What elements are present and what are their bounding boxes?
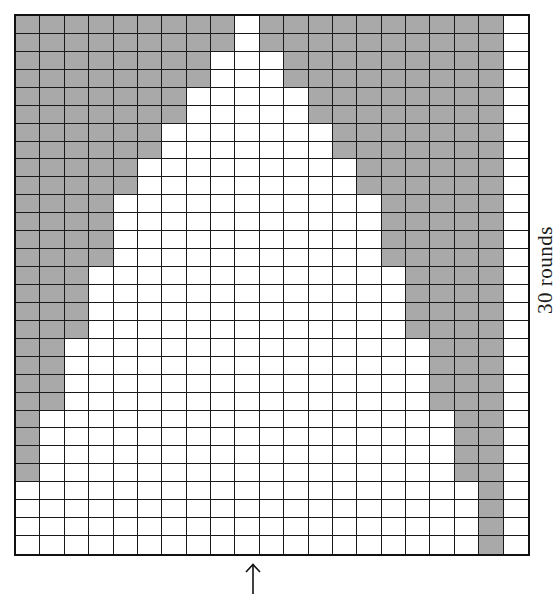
shaded-cell — [187, 34, 211, 52]
shaded-cell — [455, 339, 479, 357]
shaded-cell — [89, 124, 113, 142]
blank-cell — [138, 339, 162, 357]
shaded-cell — [16, 249, 40, 267]
blank-cell — [65, 446, 89, 464]
blank-cell — [309, 357, 333, 375]
shaded-cell — [430, 124, 454, 142]
blank-cell — [162, 142, 186, 160]
blank-cell — [284, 231, 308, 249]
up-arrow-icon — [243, 563, 263, 595]
shaded-cell — [479, 446, 503, 464]
blank-cell — [235, 464, 259, 482]
blank-cell — [114, 303, 138, 321]
shaded-cell — [430, 16, 454, 34]
blank-cell — [162, 482, 186, 500]
shaded-cell — [479, 285, 503, 303]
blank-cell — [187, 249, 211, 267]
blank-cell — [235, 195, 259, 213]
blank-cell — [89, 339, 113, 357]
blank-cell — [309, 393, 333, 411]
blank-cell — [382, 482, 406, 500]
shaded-cell — [455, 70, 479, 88]
blank-cell — [138, 321, 162, 339]
blank-cell — [309, 303, 333, 321]
blank-cell — [357, 428, 381, 446]
shaded-cell — [16, 428, 40, 446]
shaded-cell — [406, 303, 430, 321]
blank-cell — [430, 500, 454, 518]
blank-cell — [504, 393, 528, 411]
blank-cell — [65, 500, 89, 518]
blank-cell — [138, 285, 162, 303]
shaded-cell — [333, 124, 357, 142]
blank-cell — [114, 231, 138, 249]
blank-cell — [260, 446, 284, 464]
shaded-cell — [430, 52, 454, 70]
shaded-cell — [16, 88, 40, 106]
blank-cell — [211, 428, 235, 446]
shaded-cell — [40, 106, 64, 124]
shaded-cell — [16, 16, 40, 34]
blank-cell — [382, 267, 406, 285]
blank-cell — [455, 482, 479, 500]
blank-cell — [260, 375, 284, 393]
shaded-cell — [16, 321, 40, 339]
shaded-cell — [162, 88, 186, 106]
shaded-cell — [430, 303, 454, 321]
blank-cell — [357, 249, 381, 267]
blank-cell — [138, 195, 162, 213]
blank-cell — [260, 357, 284, 375]
blank-cell — [504, 321, 528, 339]
shaded-cell — [138, 52, 162, 70]
shaded-cell — [16, 375, 40, 393]
blank-cell — [430, 446, 454, 464]
shaded-cell — [479, 16, 503, 34]
shaded-cell — [406, 177, 430, 195]
blank-cell — [89, 375, 113, 393]
shaded-cell — [406, 285, 430, 303]
blank-cell — [309, 321, 333, 339]
blank-cell — [333, 518, 357, 536]
shaded-cell — [479, 249, 503, 267]
blank-cell — [260, 70, 284, 88]
blank-cell — [455, 536, 479, 554]
blank-cell — [89, 357, 113, 375]
blank-cell — [162, 500, 186, 518]
blank-cell — [211, 195, 235, 213]
blank-cell — [211, 303, 235, 321]
shaded-cell — [430, 195, 454, 213]
blank-cell — [211, 52, 235, 70]
blank-cell — [504, 518, 528, 536]
blank-cell — [187, 518, 211, 536]
shaded-cell — [284, 52, 308, 70]
blank-cell — [284, 106, 308, 124]
blank-cell — [260, 106, 284, 124]
blank-cell — [235, 159, 259, 177]
blank-cell — [406, 464, 430, 482]
shaded-cell — [16, 106, 40, 124]
shaded-cell — [430, 393, 454, 411]
blank-cell — [284, 321, 308, 339]
shaded-cell — [430, 321, 454, 339]
blank-cell — [89, 536, 113, 554]
shaded-cell — [357, 70, 381, 88]
shaded-cell — [382, 124, 406, 142]
blank-cell — [260, 124, 284, 142]
shaded-cell — [40, 231, 64, 249]
blank-cell — [382, 321, 406, 339]
shaded-cell — [40, 195, 64, 213]
shaded-cell — [40, 249, 64, 267]
blank-cell — [162, 446, 186, 464]
blank-cell — [333, 357, 357, 375]
shaded-cell — [40, 267, 64, 285]
blank-cell — [504, 357, 528, 375]
blank-cell — [211, 482, 235, 500]
blank-cell — [162, 411, 186, 429]
shaded-cell — [333, 70, 357, 88]
shaded-cell — [40, 16, 64, 34]
blank-cell — [357, 339, 381, 357]
blank-cell — [114, 393, 138, 411]
blank-cell — [406, 428, 430, 446]
shaded-cell — [406, 142, 430, 160]
shaded-cell — [406, 88, 430, 106]
